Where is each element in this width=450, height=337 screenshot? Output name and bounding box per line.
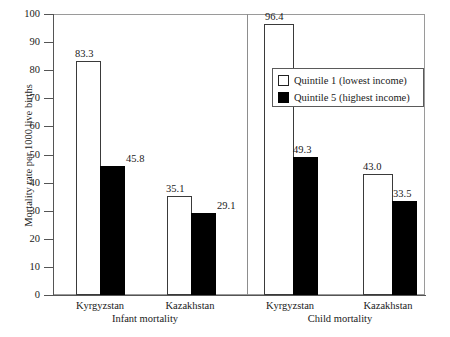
bar-infant-kazakhstan-quintile1[interactable] <box>167 196 192 295</box>
bar-child-kyrgyzstan-quintile1[interactable] <box>264 24 294 295</box>
bar-value-child-kyrgyzstan-quintile1: 96.4 <box>265 11 283 22</box>
y-tick-mark <box>44 183 53 184</box>
y-tick-mark <box>44 155 53 156</box>
bar-child-kazakhstan-quintile5[interactable] <box>392 201 417 295</box>
y-tick-mark <box>44 295 53 296</box>
bar-infant-kyrgyzstan-quintile1[interactable] <box>76 61 101 295</box>
bar-infant-kazakhstan-quintile5[interactable] <box>191 213 216 295</box>
y-tick-label-80: 80 <box>0 65 40 76</box>
legend-label-quintile5: Quintile 5 (highest income) <box>294 92 410 103</box>
bar-value-infant-kyrgyzstan-quintile1: 83.3 <box>75 48 93 59</box>
y-tick-mark <box>44 42 53 43</box>
y-tick-label-0: 0 <box>0 290 40 301</box>
x-axis-line <box>53 295 426 296</box>
bar-infant-kyrgyzstan-quintile5[interactable] <box>100 166 125 295</box>
bars-layer: 83.3 45.8 35.1 29.1 96.4 49.3 43.0 33.5 <box>53 14 425 295</box>
y-tick-mark <box>44 211 53 212</box>
bar-child-kyrgyzstan-quintile5[interactable] <box>293 157 318 296</box>
legend-item-quintile5[interactable]: Quintile 5 (highest income) <box>278 89 419 106</box>
legend-label-quintile1: Quintile 1 (lowest income) <box>294 75 407 86</box>
x-group-label-infant-mortality: Infant mortality <box>97 313 193 324</box>
y-tick-label-40: 40 <box>0 178 40 189</box>
y-tick-mark <box>44 98 53 99</box>
bar-value-child-kazakhstan-quintile1: 43.0 <box>363 161 381 172</box>
x-label-infant-kyrgyzstan: Kyrgyzstan <box>52 300 148 311</box>
y-tick-label-20: 20 <box>0 234 40 245</box>
y-tick-mark <box>44 239 53 240</box>
bar-chart: Mortality rate per 1000 live births 100 … <box>0 0 450 337</box>
y-tick-mark <box>44 267 53 268</box>
y-axis-labels: 100 90 80 70 60 50 40 30 20 10 0 <box>0 0 46 297</box>
bar-value-child-kazakhstan-quintile5: 33.5 <box>393 188 411 199</box>
y-tick-label-50: 50 <box>0 150 40 161</box>
x-label-infant-kazakhstan: Kazakhstan <box>142 300 238 311</box>
bar-value-child-kyrgyzstan-quintile5: 49.3 <box>293 144 311 155</box>
bar-child-kazakhstan-quintile1[interactable] <box>363 174 393 295</box>
legend-swatch-quintile5-icon <box>278 92 289 103</box>
bar-value-infant-kazakhstan-quintile5: 29.1 <box>217 200 235 211</box>
y-tick-mark <box>44 126 53 127</box>
legend-item-quintile1[interactable]: Quintile 1 (lowest income) <box>278 72 419 89</box>
y-tick-label-30: 30 <box>0 206 40 217</box>
y-tick-mark <box>44 14 53 15</box>
x-label-child-kazakhstan: Kazakhstan <box>340 300 436 311</box>
y-tick-label-70: 70 <box>0 93 40 104</box>
y-tick-label-60: 60 <box>0 121 40 132</box>
bar-value-infant-kyrgyzstan-quintile5: 45.8 <box>126 153 144 164</box>
y-tick-label-10: 10 <box>0 262 40 273</box>
x-group-label-child-mortality: Child mortality <box>292 313 388 324</box>
y-tick-mark <box>44 70 53 71</box>
legend-swatch-quintile1-icon <box>278 75 289 86</box>
y-tick-label-100: 100 <box>0 9 40 20</box>
bar-value-infant-kazakhstan-quintile1: 35.1 <box>166 183 184 194</box>
legend: Quintile 1 (lowest income) Quintile 5 (h… <box>272 68 424 107</box>
group-separator <box>247 14 248 295</box>
y-tick-label-90: 90 <box>0 37 40 48</box>
x-label-child-kyrgyzstan: Kyrgyzstan <box>242 300 338 311</box>
